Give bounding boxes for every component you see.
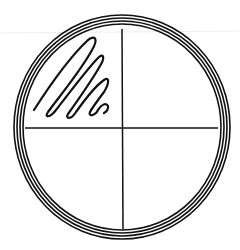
- scan-artifact-line: [0, 31, 240, 33]
- petri-dish-diagram: [0, 0, 240, 250]
- quadrant-dividers: [25, 29, 218, 229]
- vertical-divider: [122, 29, 123, 229]
- petri-dish-svg: [0, 0, 240, 250]
- streak-pattern: [34, 38, 108, 118]
